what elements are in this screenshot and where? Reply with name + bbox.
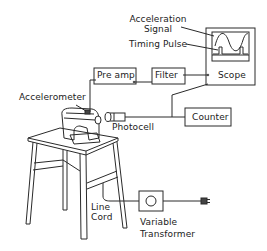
photocell-device bbox=[105, 113, 125, 122]
variable-transformer-label-line1: Variable bbox=[140, 216, 195, 228]
scope-label: Scope bbox=[218, 70, 246, 80]
pre-amp-label: Pre amp bbox=[97, 70, 135, 80]
acceleration-signal-label-line2: Signal bbox=[128, 24, 188, 34]
acceleration-signal-label: Acceleration Signal bbox=[128, 14, 188, 34]
machine bbox=[62, 108, 101, 144]
timing-pulse-label: Timing Pulse bbox=[129, 39, 187, 49]
line-cord-label-line2: Cord bbox=[91, 212, 112, 222]
photocell-label: Photocell bbox=[112, 122, 154, 132]
table bbox=[26, 128, 127, 239]
counter-label: Counter bbox=[192, 112, 229, 122]
timing-pulse-trace bbox=[213, 47, 248, 54]
accelerometer-label: Accelerometer bbox=[19, 92, 86, 102]
variable-transformer-label: Variable Transformer bbox=[140, 216, 195, 240]
power-plug-icon bbox=[201, 198, 210, 204]
variable-transformer-device bbox=[139, 191, 163, 211]
acceleration-signal-label-line1: Acceleration bbox=[128, 14, 188, 24]
line-cord-label-line1: Line bbox=[91, 202, 112, 212]
line-cord-wire bbox=[103, 183, 139, 201]
variable-transformer-label-line2: Transformer bbox=[140, 228, 195, 240]
filter-label: Filter bbox=[155, 70, 178, 80]
line-cord-label: Line Cord bbox=[91, 202, 112, 222]
